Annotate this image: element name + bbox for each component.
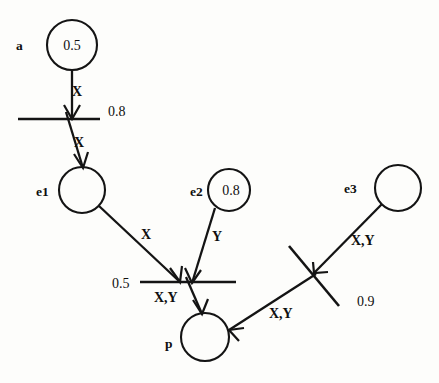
edge-label-t1-to-e1: X: [74, 135, 84, 150]
node-label-e1: e1: [36, 184, 49, 199]
node-label-a: a: [16, 38, 23, 53]
node-label-p: p: [165, 336, 173, 351]
edge-label-e3-to-t3: X,Y: [351, 233, 375, 248]
diagram-canvas: 0.5 0.8 a e1 e2 e3 p X X X Y X,Y X,Y X,Y…: [0, 0, 439, 383]
edge-label-t3-to-p: X,Y: [269, 306, 293, 321]
transitions-layer: [18, 119, 339, 306]
diagram-svg: 0.5 0.8 a e1 e2 e3 p X X X Y X,Y X,Y X,Y…: [0, 0, 439, 383]
transition-weight-right: 0.9: [357, 294, 375, 309]
node-labels-layer: a e1 e2 e3 p: [16, 38, 357, 351]
node-label-e3: e3: [344, 181, 357, 196]
node-p[interactable]: [181, 313, 229, 361]
edge-label-t2-to-p: X,Y: [154, 290, 178, 305]
edge-label-e1-to-t2: X: [141, 227, 151, 242]
transition-weight-middle: 0.5: [112, 276, 130, 291]
edge-e1-to-transition-middle: [99, 206, 182, 282]
edge-label-e2-to-t2: Y: [212, 229, 222, 244]
node-e1[interactable]: [59, 167, 105, 213]
node-e3[interactable]: [375, 165, 421, 211]
edge-e2-to-transition-middle: [185, 208, 215, 283]
transition-weight-top: 0.8: [108, 104, 126, 119]
edge-label-a-to-t1: X: [72, 84, 82, 99]
node-label-e2: e2: [190, 184, 203, 199]
node-e2-value: 0.8: [222, 183, 240, 198]
node-a-value: 0.5: [63, 38, 81, 53]
